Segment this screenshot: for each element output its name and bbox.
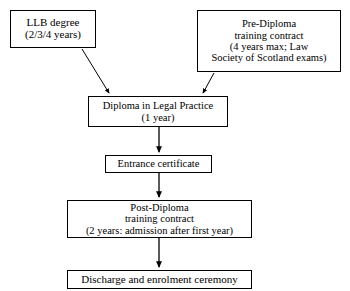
post-diploma-training-contract-box: Post-Diploma training contract (2 years:…	[67, 200, 252, 238]
llb-degree-line-2: (2/3/4 years)	[25, 29, 81, 41]
llb-degree-box: LLB degree (2/3/4 years)	[10, 10, 96, 48]
post-diploma-line-1: Post-Diploma	[130, 202, 188, 213]
flowchart-diagram: LLB degree (2/3/4 years) Pre-Diploma tra…	[0, 0, 350, 291]
post-diploma-line-2: training contract	[125, 213, 194, 224]
pre-diploma-line-3: (4 years max; Law	[230, 41, 308, 52]
diploma-in-legal-practice-box: Diploma in Legal Practice (1 year)	[88, 96, 228, 127]
pre-diploma-training-contract-box: Pre-Diploma training contract (4 years m…	[197, 10, 341, 72]
pre-diploma-line-2: training contract	[234, 30, 303, 41]
pre-diploma-line-1: Pre-Diploma	[242, 18, 296, 29]
entrance-certificate-box: Entrance certificate	[105, 155, 212, 173]
entrance-certificate-line-1: Entrance certificate	[118, 158, 200, 169]
discharge-and-enrolment-ceremony-box: Discharge and enrolment ceremony	[67, 270, 252, 289]
post-diploma-line-3: (2 years: admission after first year)	[86, 225, 233, 236]
diploma-line-1: Diploma in Legal Practice	[103, 100, 214, 111]
edge-llb-to-diploma	[82, 49, 109, 93]
pre-diploma-line-4: Society of Scotland exams)	[211, 52, 326, 63]
diploma-line-2: (1 year)	[142, 112, 175, 123]
edge-predip-to-diploma	[203, 73, 214, 93]
discharge-line-1: Discharge and enrolment ceremony	[81, 274, 238, 286]
